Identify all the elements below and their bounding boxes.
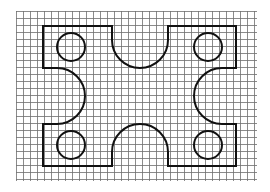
- diagram-canvas: Plate with four semicircular notches and…: [0, 0, 270, 192]
- grid: [16, 11, 257, 181]
- hole-circle-bottom-left: [57, 131, 85, 159]
- holes: [57, 33, 222, 159]
- diagram-svg: [0, 0, 270, 192]
- hole-circle-top-left: [57, 33, 85, 61]
